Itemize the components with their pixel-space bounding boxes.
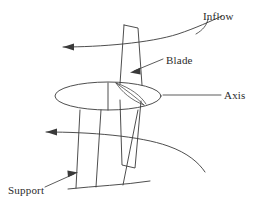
blade-leader <box>130 59 163 75</box>
support-tower <box>76 110 138 188</box>
label-support: Support <box>8 185 44 196</box>
diagram-canvas <box>0 0 266 210</box>
turbine-diagram: Inflow Blade Axis Support <box>0 0 266 210</box>
support-leader <box>45 170 78 187</box>
inflow-arrowhead-lower <box>46 129 57 136</box>
label-axis: Axis <box>224 90 246 101</box>
ground-line <box>68 181 150 189</box>
label-inflow: Inflow <box>203 11 234 22</box>
label-blade: Blade <box>166 55 193 66</box>
blade-leader-arrowhead <box>130 68 141 75</box>
inflow-arrowhead-upper <box>63 44 74 51</box>
inflow-streamline-upper <box>63 16 222 50</box>
